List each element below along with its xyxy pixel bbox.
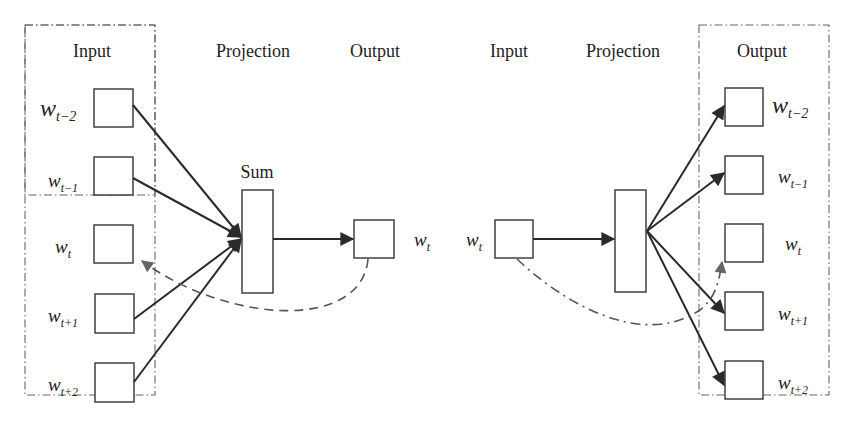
cbow-output-header: Output (350, 41, 400, 61)
skipgram-output-node (725, 361, 763, 399)
skipgram-input-header: Input (490, 41, 528, 61)
skipgram-output-arrow (647, 231, 724, 313)
skipgram-output-node (725, 156, 763, 194)
cbow-model: Input Projection Output wt−2 wt−1 wt wt+… (25, 25, 431, 402)
cbow-input-label: wt−1 (48, 170, 78, 195)
cbow-input-label: wt+1 (48, 305, 78, 330)
skipgram-output-label: wt−2 (772, 92, 808, 121)
cbow-input-node (95, 363, 134, 402)
cbow-input-node (94, 89, 133, 127)
skipgram-output-header: Output (737, 41, 787, 61)
cbow-input-label: wt (55, 236, 72, 261)
sum-label: Sum (240, 162, 273, 182)
skipgram-input-label: wt (466, 229, 483, 254)
skipgram-projection-header: Projection (586, 41, 660, 61)
skipgram-output-node (725, 224, 763, 262)
cbow-input-node (94, 225, 133, 263)
cbow-input-arrow (134, 239, 241, 319)
cbow-input-label: wt+2 (48, 374, 78, 399)
cbow-projection-header: Projection (216, 41, 290, 61)
cbow-input-arrow (133, 105, 241, 237)
cbow-input-label: wt−2 (40, 95, 76, 124)
skipgram-output-node (725, 292, 763, 330)
cbow-input-frame (25, 25, 155, 395)
skipgram-output-arrow (647, 106, 724, 231)
cbow-input-node (95, 294, 134, 333)
cbow-output-node (354, 220, 394, 258)
skipgram-input-node (495, 220, 533, 258)
skipgram-output-arrow (647, 173, 724, 231)
cbow-output-label: wt (414, 229, 431, 254)
word2vec-diagram: Input Projection Output wt−2 wt−1 wt wt+… (0, 0, 850, 439)
skipgram-projection-node (615, 190, 646, 292)
skipgram-output-label: wt+2 (778, 372, 808, 397)
cbow-input-arrow (134, 239, 241, 382)
skipgram-output-label: wt−1 (778, 166, 808, 191)
skipgram-output-label: wt+1 (778, 303, 808, 328)
skipgram-output-frame (699, 25, 829, 395)
cbow-projection-node (242, 190, 273, 293)
cbow-input-header: Input (73, 41, 111, 61)
cbow-input-node (94, 157, 133, 195)
skipgram-output-arrow (647, 231, 724, 385)
skipgram-model: Input Projection Output wt wt−2 wt−1 wt … (466, 25, 829, 399)
skipgram-output-node (725, 88, 763, 126)
cbow-input-arrow (133, 178, 241, 237)
skipgram-output-label: wt (785, 233, 802, 258)
